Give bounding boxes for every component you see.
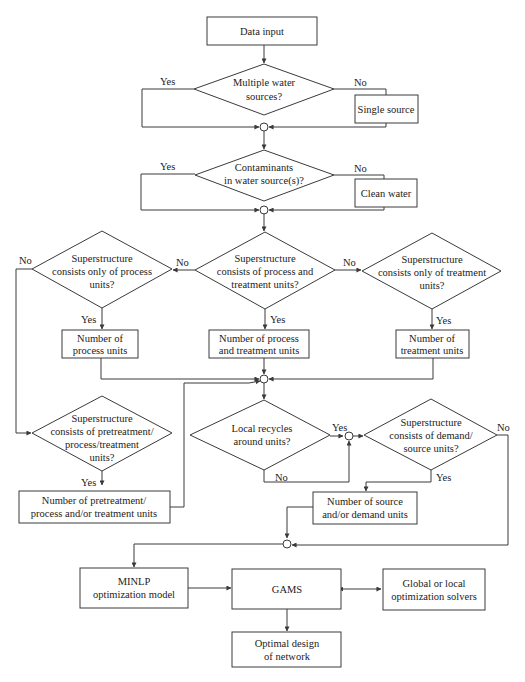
node-minlp [80, 568, 188, 608]
label-pretreatment-q-4: units? [89, 452, 114, 463]
label-num-treatment-2: treatment units [401, 345, 464, 356]
edge-label-d2-yes: Yes [160, 161, 175, 172]
edge-label-left-yes: Yes [81, 314, 96, 325]
edge-label-center-no-right: No [343, 257, 356, 268]
junction-circle [260, 206, 268, 214]
label-minlp-1: MINLP [118, 576, 151, 587]
edge-label-demand-yes: Yes [436, 472, 451, 483]
label-only-treatment-3: units? [419, 280, 444, 291]
label-optimal-1: Optimal design [255, 638, 320, 649]
label-num-process-treatment-1: Number of process [219, 333, 299, 344]
edge-single-to-j1 [269, 123, 386, 127]
label-gams: GAMS [272, 584, 303, 595]
edge-label-d2-no: No [354, 163, 367, 174]
edge-numproc-to-j3 [101, 358, 259, 379]
edge-numtreat-to-j3 [269, 358, 433, 379]
label-local-recycles-2: around units? [234, 436, 291, 447]
label-only-treatment-2: consists only of treatment [378, 267, 486, 278]
edge-label-right-yes: Yes [436, 315, 451, 326]
label-multiple-sources-1: Multiple water [233, 77, 296, 88]
edge-label-center-yes: Yes [270, 314, 285, 325]
label-num-process-2: process units [73, 345, 128, 356]
label-num-process-1: Number of [77, 333, 123, 344]
junction-circle [345, 432, 353, 440]
edge-source-to-j5 [287, 507, 313, 538]
node-multiple-sources [194, 64, 334, 115]
label-num-process-treatment-2: and treatment units [219, 345, 299, 356]
node-solvers [383, 569, 485, 610]
junction-circle [260, 123, 268, 131]
label-local-recycles-1: Local recycles [232, 423, 293, 434]
edge-label-recycle-yes: Yes [332, 422, 347, 433]
edge-label-d1-yes: Yes [160, 76, 175, 87]
edge-label-left-no: No [19, 255, 32, 266]
label-num-treatment-1: Number of [409, 333, 455, 344]
label-only-process-3: units? [89, 279, 114, 290]
label-only-treatment-1: Superstructure [401, 254, 463, 265]
edge-label-d1-no: No [354, 77, 367, 88]
label-solvers-1: Global or local [403, 578, 466, 589]
junction-circle [260, 375, 268, 383]
label-demand-source-q-3: source units? [403, 443, 458, 454]
junction-circle [283, 540, 291, 548]
label-demand-source-q-1: Superstructure [400, 417, 462, 428]
label-minlp-2: optimization model [93, 589, 175, 600]
label-num-pretreatment-2: process and/or treatment units [31, 508, 157, 519]
label-pretreatment-q-3: process/treatment [65, 439, 139, 450]
label-single-source: Single source [358, 104, 415, 115]
label-demand-source-q-2: consists of demand/ [389, 430, 472, 441]
label-data-input: Data input [240, 26, 284, 37]
label-multiple-sources-2: sources? [246, 91, 282, 102]
node-local-recycles [190, 400, 330, 470]
label-process-treatment-3: treatment units? [231, 279, 299, 290]
edge-label-demand-no: No [497, 422, 510, 433]
label-contaminants-2: in water source(s)? [224, 175, 304, 187]
label-clean-water: Clean water [361, 188, 412, 199]
label-process-treatment-1: Superstructure [234, 253, 296, 264]
edge-d2-no [334, 175, 384, 179]
label-solvers-2: optimization solvers [391, 591, 476, 602]
label-only-process-1: Superstructure [71, 253, 133, 264]
edge-label-pretreat-yes: Yes [81, 477, 96, 488]
label-optimal-2: of network [264, 651, 311, 662]
edge-demand-yes [366, 470, 431, 491]
label-contaminants-1: Contaminants [235, 162, 293, 173]
label-num-source-demand-1: Number of source [327, 496, 403, 507]
label-only-process-2: consists only of process [52, 266, 152, 277]
edge-d1-no [334, 89, 386, 95]
edge-j5-to-minlp [134, 544, 283, 567]
edge-left-no [16, 269, 32, 433]
label-num-source-demand-2: and/or demand units [322, 509, 408, 520]
label-process-treatment-2: consists of process and [217, 266, 314, 277]
edge-label-center-no-left: No [176, 257, 189, 268]
flowchart: Data input Multiple water sources? Singl… [0, 0, 525, 682]
label-pretreatment-q-2: consists of pretreatment/ [50, 426, 153, 437]
label-num-pretreatment-1: Number of pretreatment/ [42, 495, 146, 506]
edge-label-recycle-no: No [275, 472, 288, 483]
label-pretreatment-q-1: Superstructure [71, 413, 133, 424]
